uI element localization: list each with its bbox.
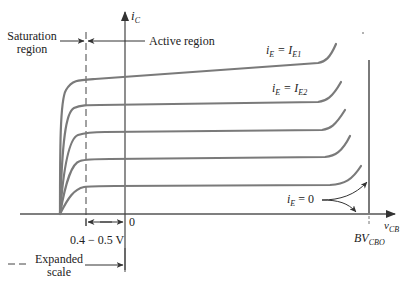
- curve-label-ie1: iE = IE1: [266, 44, 301, 61]
- y-axis-label: iC: [131, 9, 140, 27]
- curve-label-ie2: iE = IE2: [272, 82, 307, 99]
- expanded-scale-legend: Expanded scale: [33, 253, 85, 279]
- active-region-label: Active region: [149, 35, 215, 48]
- breakdown-voltage-label: BVCBO: [354, 232, 385, 249]
- x-axis-label: vCB: [384, 219, 399, 236]
- origin-zero-label: 0: [129, 216, 135, 229]
- curve-ie1: [60, 44, 336, 214]
- saturation-region-label: Saturation region: [4, 30, 60, 56]
- curve-label-ie0: iE = 0: [287, 193, 314, 210]
- curve-5: [60, 166, 361, 214]
- voltage-range-label: 0.4 − 0.5 V: [70, 234, 124, 247]
